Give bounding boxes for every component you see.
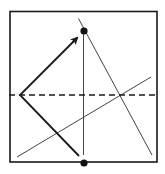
bottom-point-dot: [80, 159, 87, 166]
arrowhead-icon: [73, 38, 77, 42]
top-point-dot: [80, 27, 87, 34]
fold-arrow-icon: [20, 38, 79, 156]
folding-diagram: [0, 0, 165, 174]
long-diagonal-line: [79, 19, 153, 156]
